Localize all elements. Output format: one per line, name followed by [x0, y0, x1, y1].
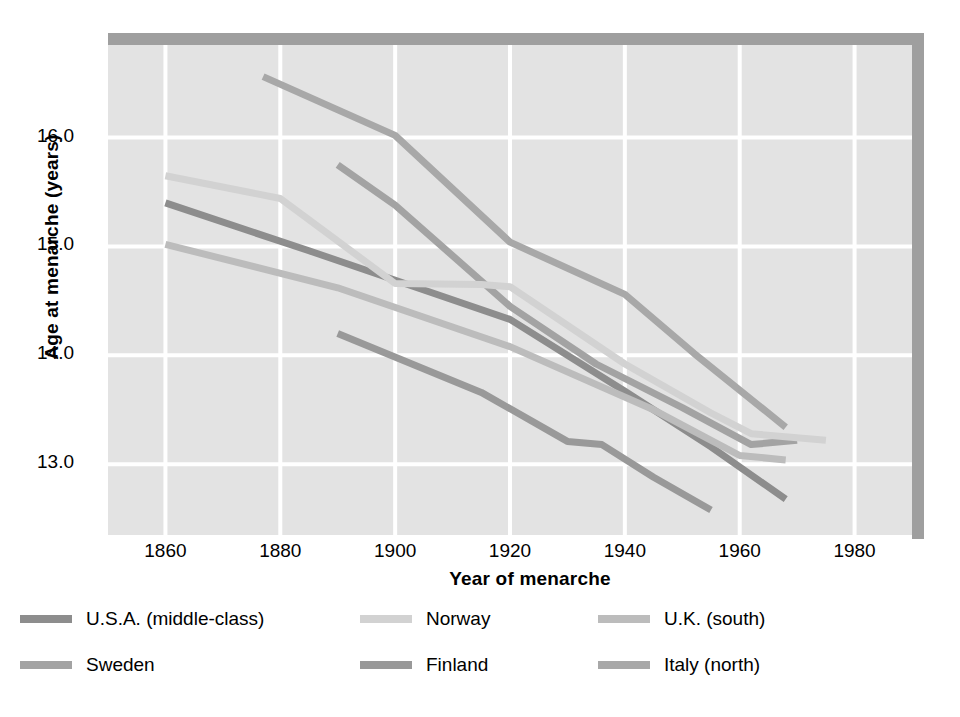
- legend-item[interactable]: Italy (north): [598, 654, 760, 676]
- legend-item[interactable]: U.K. (south): [598, 608, 765, 630]
- y-tick-label: 15.0: [4, 233, 74, 255]
- legend-swatch-icon: [598, 615, 650, 623]
- x-tick-label: 1960: [695, 540, 785, 562]
- legend-label: Italy (north): [664, 654, 760, 676]
- legend-swatch-icon: [360, 661, 412, 669]
- x-tick-label: 1880: [235, 540, 325, 562]
- legend-label: Sweden: [86, 654, 155, 676]
- y-tick-label: 16.0: [4, 125, 74, 147]
- legend-item[interactable]: Sweden: [20, 654, 155, 676]
- x-tick-label: 1900: [350, 540, 440, 562]
- legend-swatch-icon: [360, 615, 412, 623]
- chart-figure: Age at menarche (years) Year of menarche…: [0, 0, 960, 717]
- legend-swatch-icon: [598, 661, 650, 669]
- y-tick-label: 13.0: [4, 451, 74, 473]
- x-tick-label: 1940: [580, 540, 670, 562]
- legend-label: U.S.A. (middle-class): [86, 608, 264, 630]
- legend-label: Finland: [426, 654, 488, 676]
- x-tick-label: 1920: [465, 540, 555, 562]
- x-tick-label: 1860: [120, 540, 210, 562]
- legend-label: Norway: [426, 608, 490, 630]
- legend-swatch-icon: [20, 615, 72, 623]
- legend-item[interactable]: Norway: [360, 608, 490, 630]
- legend-label: U.K. (south): [664, 608, 765, 630]
- legend-item[interactable]: U.S.A. (middle-class): [20, 608, 264, 630]
- chart-legend: U.S.A. (middle-class)NorwayU.K. (south)S…: [20, 608, 940, 708]
- x-axis-label: Year of menarche: [100, 568, 960, 590]
- x-tick-label: 1980: [810, 540, 900, 562]
- legend-swatch-icon: [20, 661, 72, 669]
- y-tick-label: 14.0: [4, 342, 74, 364]
- legend-item[interactable]: Finland: [360, 654, 488, 676]
